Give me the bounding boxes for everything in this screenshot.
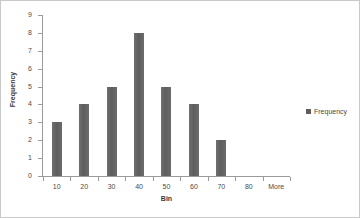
bar <box>161 87 171 176</box>
bar <box>216 140 226 176</box>
y-axis-tick-label: 8 <box>28 28 32 37</box>
bar <box>107 87 117 176</box>
y-axis-tick-label: 0 <box>28 171 32 180</box>
x-axis-tick-label: 70 <box>208 182 235 191</box>
x-axis-tick-label: 20 <box>70 182 97 191</box>
legend-label-frequency: Frequency <box>314 107 347 116</box>
y-axis-tick-label: 2 <box>28 135 32 144</box>
y-axis-tick-label: 7 <box>28 46 32 55</box>
x-axis-line <box>42 176 290 177</box>
y-axis-tick-label: 9 <box>28 10 32 19</box>
y-axis-tick: 2 <box>38 140 42 141</box>
bar <box>134 33 144 176</box>
x-axis-tick <box>43 177 44 181</box>
plot-area: 9876543210 <box>42 15 290 177</box>
bar-slot <box>153 15 180 176</box>
y-axis-tick: 3 <box>38 122 42 123</box>
y-axis-tick-label: 6 <box>28 64 32 73</box>
bar <box>52 122 62 176</box>
y-axis-tick: 6 <box>38 69 42 70</box>
bar-slot <box>70 15 97 176</box>
x-axis-tick-labels: 1020304050607080More <box>43 182 290 191</box>
x-axis-tick <box>263 177 264 181</box>
x-axis-tick-label: 50 <box>153 182 180 191</box>
x-axis-tick <box>70 177 71 181</box>
x-axis-tick <box>235 177 236 181</box>
x-axis-tick <box>180 177 181 181</box>
y-axis-tick: 5 <box>38 87 42 88</box>
x-axis-tick-label: More <box>263 182 290 191</box>
legend: Frequency <box>306 107 347 116</box>
y-axis-tick-label: 4 <box>28 99 32 108</box>
y-axis-tick: 7 <box>38 51 42 52</box>
y-axis-tick-label: 1 <box>28 153 32 162</box>
y-axis-tick-label: 5 <box>28 82 32 91</box>
y-axis-tick: 8 <box>38 33 42 34</box>
x-axis-tick-label: 60 <box>180 182 207 191</box>
bar <box>189 104 199 176</box>
bar-series-frequency <box>43 15 290 176</box>
x-axis-tick-label: 40 <box>125 182 152 191</box>
y-axis-tick: 9 <box>38 15 42 16</box>
x-axis-tick <box>208 177 209 181</box>
x-axis-tick-label: 80 <box>235 182 262 191</box>
histogram-chart: Frequency 9876543210 1020304050607080Mor… <box>0 0 360 218</box>
bar-slot <box>263 15 290 176</box>
bar-slot <box>180 15 207 176</box>
bar-slot <box>43 15 70 176</box>
bar-slot <box>98 15 125 176</box>
bar <box>79 104 89 176</box>
x-axis-tick <box>98 177 99 181</box>
y-axis-title-label: Frequency <box>10 71 17 106</box>
y-axis-tick: 0 <box>38 176 42 177</box>
y-axis-title: Frequency <box>7 1 19 177</box>
bar-slot <box>208 15 235 176</box>
y-axis-tick: 4 <box>38 104 42 105</box>
x-axis-tick-label: 30 <box>98 182 125 191</box>
bar-slot <box>125 15 152 176</box>
legend-swatch-icon <box>306 109 311 114</box>
x-axis-tick <box>153 177 154 181</box>
x-axis-tick <box>125 177 126 181</box>
x-axis-tick <box>290 177 291 181</box>
bar-slot <box>235 15 262 176</box>
y-axis-tick-label: 3 <box>28 117 32 126</box>
x-axis-title: Bin <box>43 195 290 202</box>
y-axis-tick: 1 <box>38 158 42 159</box>
x-axis-tick-label: 10 <box>43 182 70 191</box>
